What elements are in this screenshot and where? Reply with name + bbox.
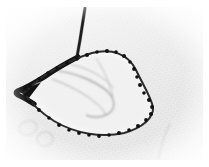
scanned-photo-figure: Scanned grayscale photograph of a pinned…	[0, 0, 209, 167]
border-fade-left	[0, 0, 6, 167]
specimen-photograph	[0, 0, 209, 167]
border-fade-right	[203, 0, 209, 167]
vignette-overlay	[0, 0, 209, 167]
border-fade-bottom	[0, 160, 209, 167]
border-fade-top	[0, 0, 209, 7]
